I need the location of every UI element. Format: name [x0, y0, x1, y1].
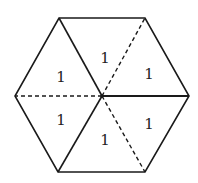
- region-label: 1: [56, 111, 66, 129]
- region-label: 1: [100, 49, 110, 67]
- region-label: 1: [56, 68, 66, 86]
- region-label: 1: [144, 115, 154, 133]
- hexagon-diagram: 1 1 1 1 1 1: [0, 0, 198, 183]
- solid-spoke-bottom-left: [58, 96, 102, 172]
- region-label: 1: [144, 65, 154, 83]
- region-label: 1: [100, 131, 110, 149]
- center-point: [100, 94, 104, 98]
